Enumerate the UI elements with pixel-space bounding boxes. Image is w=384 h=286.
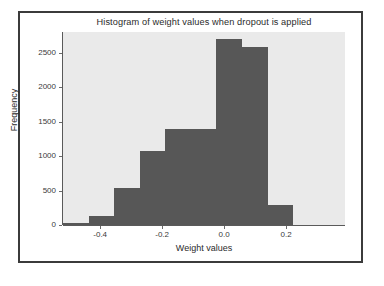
x-tick-mark bbox=[224, 226, 225, 229]
x-tick-mark bbox=[286, 226, 287, 229]
y-tick-label: 0 bbox=[10, 220, 56, 229]
y-axis-title: Frequency bbox=[9, 75, 19, 145]
y-tick-mark bbox=[59, 122, 62, 123]
y-tick-mark bbox=[59, 225, 62, 226]
figure-root: Histogram of weight values when dropout … bbox=[0, 0, 384, 286]
x-tick-label: -0.4 bbox=[80, 230, 120, 239]
histogram-bar bbox=[216, 39, 242, 225]
x-tick-label: -0.2 bbox=[142, 230, 182, 239]
x-tick-label: 0.2 bbox=[266, 230, 306, 239]
histogram-bar bbox=[140, 151, 166, 225]
chart-title: Histogram of weight values when dropout … bbox=[63, 16, 345, 28]
x-axis-line bbox=[63, 225, 345, 226]
histogram-bar bbox=[242, 47, 268, 225]
histogram-bar bbox=[191, 129, 217, 225]
y-tick-label: 1000 bbox=[10, 151, 56, 160]
histogram-bars bbox=[63, 32, 345, 225]
histogram-bar bbox=[114, 188, 140, 225]
histogram-bar bbox=[165, 129, 191, 225]
x-tick-label: 0.0 bbox=[204, 230, 244, 239]
y-tick-mark bbox=[59, 156, 62, 157]
y-tick-label: 2500 bbox=[10, 48, 56, 57]
y-axis-line bbox=[62, 32, 63, 225]
y-tick-mark bbox=[59, 87, 62, 88]
x-axis-title: Weight values bbox=[63, 243, 345, 253]
x-tick-mark bbox=[100, 226, 101, 229]
histogram-bar bbox=[268, 205, 294, 225]
plot-area bbox=[63, 32, 345, 225]
y-tick-mark bbox=[59, 191, 62, 192]
x-tick-mark bbox=[162, 226, 163, 229]
y-tick-label: 500 bbox=[10, 186, 56, 195]
histogram-bar bbox=[89, 216, 115, 225]
y-tick-mark bbox=[59, 53, 62, 54]
